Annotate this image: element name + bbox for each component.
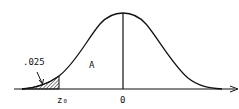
tail-pointer-arrow: [37, 72, 42, 83]
normal-curve-figure: .025 A z₀ 0: [0, 0, 239, 109]
region-a-label: A: [89, 61, 94, 70]
normal-curve-svg: [0, 0, 239, 109]
shaded-tail-region: [22, 76, 59, 89]
bell-curve: [22, 13, 222, 89]
critical-value-label: z₀: [57, 96, 68, 105]
tail-area-label: .025: [23, 58, 45, 67]
mean-label: 0: [120, 96, 125, 105]
